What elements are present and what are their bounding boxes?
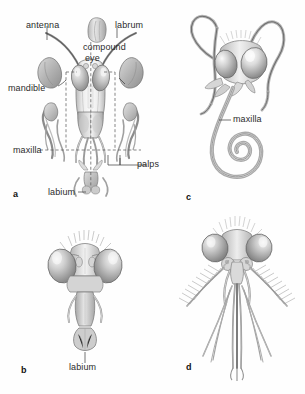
- panel-a-chewing-mouthparts: antenna labrum compound eye mandible max…: [0, 0, 175, 210]
- panel-letter-c: c: [186, 193, 191, 202]
- stylet-tip: [231, 368, 244, 381]
- piercing-stylets: [203, 284, 271, 368]
- label-mandible: mandible: [8, 84, 45, 93]
- maxilla-left: [43, 103, 65, 161]
- label-maxilla-panel-a: maxilla: [13, 146, 42, 155]
- labellum: [74, 328, 97, 351]
- panel-letter-b: b: [21, 366, 27, 375]
- label-palps: palps: [137, 160, 159, 169]
- label-labium-panel-a: labium: [48, 188, 75, 197]
- labrum-structure: [88, 18, 106, 43]
- panel-c-butterfly-mouthparts: maxilla c: [175, 0, 305, 210]
- label-labrum: labrum: [115, 21, 143, 30]
- panel-letter-d: d: [186, 363, 192, 372]
- figure-insect-mouthparts: antenna labrum compound eye mandible max…: [0, 0, 305, 394]
- label-compound-eye-line2: eye: [85, 53, 100, 64]
- label-labium-panel-b: labium: [69, 363, 96, 372]
- maxilla-right: [117, 103, 139, 161]
- coiled-proboscis: [212, 88, 261, 177]
- panel-d-mosquito-mouthparts: d: [175, 210, 305, 394]
- label-maxilla-panel-c: maxilla: [233, 115, 262, 124]
- mandible-right: [119, 58, 143, 88]
- label-compound-eye-line1: compound: [83, 42, 126, 53]
- panel-d-artwork: [175, 210, 305, 394]
- panel-b-fly-mouthparts: labium b: [0, 210, 175, 394]
- panel-a-artwork: [0, 0, 175, 210]
- label-antenna: antenna: [26, 21, 59, 30]
- panel-c-artwork: [175, 0, 305, 210]
- panel-letter-a: a: [13, 190, 18, 199]
